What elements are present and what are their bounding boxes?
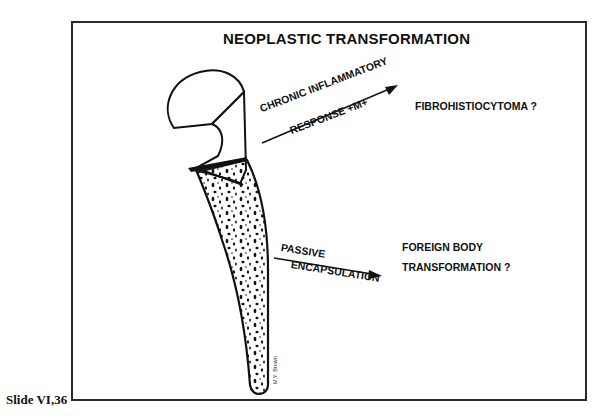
slide-caption: Slide VI,36: [6, 392, 67, 408]
outcome-foreign-body-line1: FOREIGN BODY: [402, 241, 483, 253]
artist-signature: M.Y. Brown: [272, 356, 278, 384]
hip-prosthesis-illustration: M.Y. Brown: [0, 0, 602, 416]
prosthesis-stem: [197, 160, 268, 394]
outcome-fibrohistiocytoma: FIBROHISTIOCYTOMA ?: [415, 100, 537, 112]
arrow-head-icon: [385, 85, 398, 95]
outcome-foreign-body-line2: TRANSFORMATION ?: [402, 261, 510, 273]
